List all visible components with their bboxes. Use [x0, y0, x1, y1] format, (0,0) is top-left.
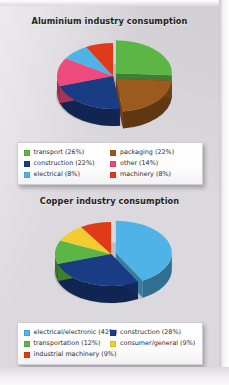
legend-swatch-icon	[110, 172, 116, 178]
legend-swatch-icon	[24, 352, 30, 358]
legend-label: transport (26%)	[34, 148, 85, 157]
page-edge-top	[0, 0, 229, 6]
legend-swatch-icon	[110, 330, 116, 336]
legend-item: construction (22%)	[24, 158, 111, 169]
legend-item: industrial machinery (9%)	[24, 349, 197, 360]
chart-panel-aluminium: Aluminium industry consumption transport…	[0, 16, 219, 196]
pie-slice-top	[115, 40, 171, 75]
legend-label: transportation (12%)	[34, 339, 101, 348]
legend-swatch-icon	[24, 161, 30, 167]
legend-item: consumer/general (9%)	[110, 338, 197, 349]
chart-legend-aluminium: transport (26%)packaging (22%)constructi…	[17, 142, 203, 185]
chart-title-aluminium: Aluminium industry consumption	[0, 16, 219, 27]
legend-label: electrical/electronic (42%)	[34, 328, 118, 337]
legend-item: other (14%)	[110, 158, 197, 169]
page-edge-bottom	[0, 367, 229, 385]
page-edge-right	[219, 0, 229, 385]
legend-swatch-icon	[24, 330, 30, 336]
legend-item: electrical/electronic (42%)	[24, 327, 111, 338]
legend-swatch-icon	[110, 150, 116, 156]
legend-swatch-icon	[24, 172, 30, 178]
legend-label: packaging (22%)	[120, 148, 174, 157]
pie-chart-copper	[0, 210, 219, 318]
legend-item: transportation (12%)	[24, 338, 111, 349]
legend-swatch-icon	[24, 150, 30, 156]
legend-swatch-icon	[110, 161, 116, 167]
legend-label: machinery (8%)	[120, 170, 171, 179]
legend-label: other (14%)	[120, 159, 158, 168]
legend-item: transport (26%)	[24, 147, 111, 158]
legend-item: construction (28%)	[110, 327, 197, 338]
chart-legend-copper: electrical/electronic (42%)construction …	[17, 322, 203, 365]
legend-item: electrical (8%)	[24, 169, 111, 180]
legend-label: industrial machinery (9%)	[34, 350, 117, 359]
pie-svg	[25, 210, 195, 318]
legend-item: machinery (8%)	[110, 169, 197, 180]
legend-label: construction (22%)	[34, 159, 95, 168]
legend-swatch-icon	[110, 341, 116, 347]
legend-label: construction (28%)	[120, 328, 181, 337]
chart-panel-copper: Copper industry consumption electrical/e…	[0, 196, 219, 368]
legend-label: consumer/general (9%)	[120, 339, 195, 348]
pie-chart-aluminium	[0, 30, 219, 138]
legend-item: packaging (22%)	[110, 147, 197, 158]
legend-label: electrical (8%)	[34, 170, 80, 179]
legend-swatch-icon	[24, 341, 30, 347]
pie-svg	[25, 30, 195, 138]
chart-title-copper: Copper industry consumption	[0, 196, 219, 207]
